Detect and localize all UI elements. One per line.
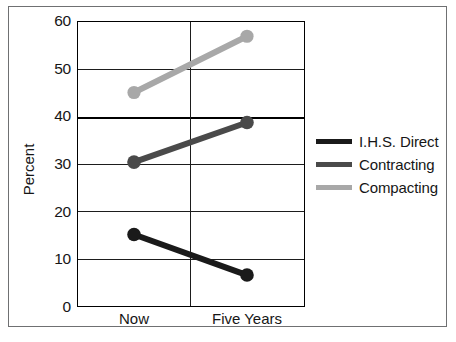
y-tick-0: 0 <box>63 298 71 316</box>
legend-label-ihs-direct: I.H.S. Direct <box>359 133 439 150</box>
gridline-40 <box>78 117 304 119</box>
gridline-50 <box>78 69 304 70</box>
x-tick-now: Now <box>119 310 149 327</box>
y-tick-40: 40 <box>54 107 71 125</box>
category-divider <box>190 22 191 306</box>
chart-legend: I.H.S. Direct Contracting Compacting <box>316 130 448 199</box>
y-axis-tick-labels: 0 10 20 30 40 50 60 <box>24 21 71 307</box>
y-tick-20: 20 <box>54 203 71 221</box>
legend-item-ihs-direct: I.H.S. Direct <box>316 130 448 153</box>
y-tick-30: 30 <box>54 155 71 173</box>
y-tick-60: 60 <box>54 12 71 30</box>
plot-area <box>77 21 305 307</box>
gridline-30 <box>78 164 304 165</box>
legend-swatch-ihs-direct <box>316 139 352 145</box>
gridline-10 <box>78 259 304 260</box>
x-tick-five-years: Five Years <box>212 310 282 327</box>
legend-swatch-contracting <box>316 162 352 168</box>
line-chart: Percent 0 10 20 30 40 50 60 Now Five Yea… <box>0 0 456 342</box>
legend-swatch-compacting <box>316 185 352 191</box>
legend-item-compacting: Compacting <box>316 176 448 199</box>
legend-label-compacting: Compacting <box>359 179 438 196</box>
y-tick-50: 50 <box>54 60 71 78</box>
page-caption <box>230 332 440 342</box>
y-tick-10: 10 <box>54 250 71 268</box>
legend-item-contracting: Contracting <box>316 153 448 176</box>
gridline-20 <box>78 211 304 212</box>
legend-label-contracting: Contracting <box>359 156 435 173</box>
